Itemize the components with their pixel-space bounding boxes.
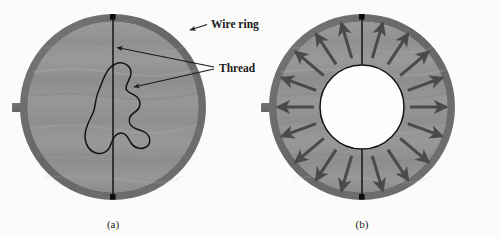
thread-anchor-dot-top-a [110,14,116,20]
thread-anchor-dot-top-b [359,14,365,20]
thread-anchor-dot-bottom-a [110,194,116,200]
thread-label: Thread [219,62,256,74]
caption-panel-b: (b) [356,218,369,231]
panel-b: (b) [261,14,451,231]
thread-anchor-dot-bottom-b [359,194,365,200]
caption-panel-a: (a) [107,218,120,231]
surface-tension-figure: (a) Wire ring Thread [0,0,500,238]
thread-loop-hole-b [320,65,404,149]
panel-a: (a) [12,14,202,231]
wire-ring-label: Wire ring [211,18,259,31]
wire-ring-leader-line [190,25,207,31]
